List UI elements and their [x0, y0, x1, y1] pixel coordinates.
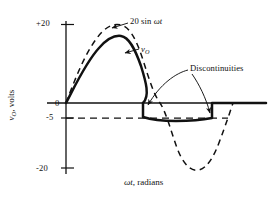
x-axis-title: ωt, radians: [124, 178, 163, 187]
output-clipped-curve: [66, 36, 266, 121]
output-annotation-subscript: O: [145, 48, 150, 55]
y-axis-title-units: , volts: [6, 90, 16, 112]
figure-container: +20 0 -5 -20 vO, volts ωt, radians 20 si…: [0, 0, 268, 200]
discontinuities-annotation: Discontinuities: [190, 64, 244, 73]
y-tick-label-pos20: +20: [36, 19, 50, 28]
input-sine-annotation: 20 sin ωt: [130, 17, 162, 26]
discontinuity-leader-left: [148, 70, 188, 105]
output-annotation: vO: [141, 45, 150, 55]
y-tick-label-neg5: -5: [46, 113, 53, 122]
discontinuity-leader-right: [192, 74, 210, 113]
y-axis-title: vO, volts: [7, 72, 17, 138]
y-axis-title-subscript: O: [10, 112, 17, 117]
y-tick-label-zero: 0: [55, 99, 59, 108]
x-axis-title-symbol: ωt: [124, 177, 133, 187]
y-axis-title-symbol: v: [6, 116, 16, 120]
input-sine-annotation-symbol: ωt: [154, 16, 163, 26]
x-axis-title-units: , radians: [133, 177, 164, 187]
y-tick-label-neg20: -20: [36, 164, 48, 173]
input-sine-annotation-lead: 20 sin: [130, 16, 154, 26]
input-sine-curve: [66, 25, 233, 171]
